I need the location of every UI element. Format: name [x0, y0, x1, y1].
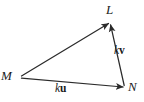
- vector-label-ku: ku: [55, 83, 67, 95]
- vector-label-ku-name: u: [60, 82, 66, 94]
- vector-diagram-figure: L M N kv ku: [0, 0, 144, 102]
- vector-arrow-MN: [22, 78, 124, 87]
- vector-label-kv-name: v: [119, 44, 125, 56]
- vector-label-kv: kv: [114, 45, 125, 57]
- vector-arrow-ML: [22, 24, 109, 77]
- vertex-label-N: N: [128, 80, 137, 93]
- vertex-label-L: L: [106, 3, 113, 16]
- vertex-label-M: M: [1, 69, 12, 82]
